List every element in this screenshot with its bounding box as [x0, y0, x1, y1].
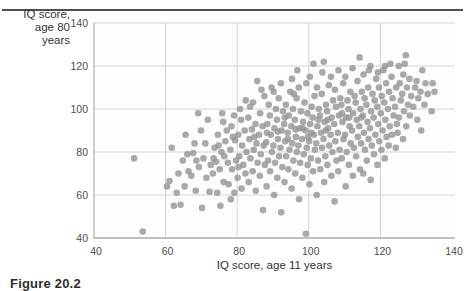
x-tick-label: 60: [148, 246, 188, 257]
figure-caption: Figure 20.2: [10, 276, 81, 291]
y-tick-label: 120: [54, 61, 88, 72]
x-tick-label: 120: [362, 246, 402, 257]
x-tick-label: 80: [219, 246, 259, 257]
y-tick-label: 80: [54, 147, 88, 158]
x-tick-label: 40: [76, 246, 116, 257]
y-tick-label: 40: [54, 233, 88, 244]
x-tick-label: 140: [434, 246, 470, 257]
x-axis-title: IQ score, age 11 years: [94, 259, 455, 271]
x-tick-label: 100: [291, 246, 331, 257]
y-tick-label: 60: [54, 190, 88, 201]
y-tick-label: 140: [54, 18, 88, 29]
y-tick-label: 100: [54, 104, 88, 115]
